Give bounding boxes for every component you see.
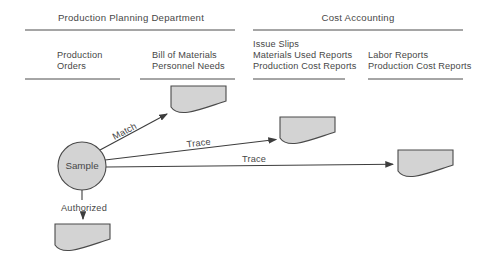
group-label-line: Production: [57, 50, 102, 60]
trace-label-2: Trace: [242, 154, 266, 164]
match-label: Match: [111, 121, 139, 142]
sample-node-label: Sample: [65, 160, 99, 171]
document-icon-production-orders: [55, 224, 110, 251]
group-label-line: Labor Reports: [368, 50, 428, 60]
group-label-line: Materials Used Reports: [253, 50, 353, 60]
group-label-line: Orders: [57, 61, 86, 71]
document-icon-labor-reports: [398, 150, 453, 177]
document-symbols: [55, 86, 453, 251]
group-issue-slips: Issue Slips Materials Used Reports Produ…: [253, 39, 357, 79]
audit-sampling-flow-diagram: Production Planning Department Cost Acco…: [0, 0, 484, 264]
header-production-planning-department: Production Planning Department: [58, 12, 204, 23]
flow-diagram-svg: Production Planning Department Cost Acco…: [0, 0, 484, 264]
document-icon-bill-of-materials: [171, 86, 226, 113]
group-production-orders: Production Orders: [25, 50, 120, 79]
group-bill-of-materials: Bill of Materials Personnel Needs: [140, 50, 235, 79]
group-labor-reports: Labor Reports Production Cost Reports: [368, 50, 472, 79]
header-cost-accounting: Cost Accounting: [321, 12, 394, 23]
document-group-labels: Production Orders Bill of Materials Pers…: [25, 39, 472, 79]
trace-arrow-labor-reports: [106, 164, 393, 167]
group-label-line: Production Cost Reports: [368, 61, 472, 71]
sample-node: Sample: [58, 142, 106, 190]
group-label-line: Bill of Materials: [152, 50, 217, 60]
group-label-line: Production Cost Reports: [253, 61, 357, 71]
group-label-line: Issue Slips: [253, 39, 299, 49]
authorized-label: Authorized: [61, 203, 107, 213]
group-label-line: Personnel Needs: [152, 61, 225, 71]
department-headers: Production Planning Department Cost Acco…: [25, 12, 463, 30]
document-icon-issue-slips: [280, 117, 335, 144]
